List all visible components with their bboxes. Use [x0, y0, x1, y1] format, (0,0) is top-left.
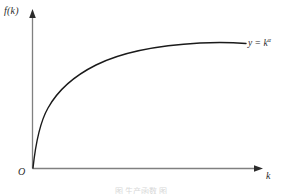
curve-equation-label: y = kα: [248, 36, 271, 48]
production-function-figure: f(k) k O y = kα 图 生产函数 图: [0, 0, 282, 194]
plot-area: [0, 0, 282, 194]
figure-caption: 图 生产函数 图: [0, 187, 282, 194]
origin-label: O: [18, 166, 25, 177]
curve-equation-exponent: α: [268, 36, 271, 43]
y-axis-arrowhead: [29, 9, 36, 18]
curve-equation-base: y = k: [248, 38, 268, 48]
y-axis-label: f(k): [4, 5, 19, 16]
x-axis-arrowhead: [254, 165, 263, 172]
production-function-curve: [33, 42, 246, 168]
x-axis-label: k: [266, 170, 270, 181]
